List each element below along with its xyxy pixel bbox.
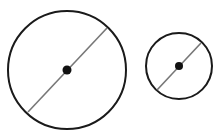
small-circle-group: [146, 33, 212, 99]
large-circle-center-dot: [63, 66, 72, 75]
large-circle-group: [8, 11, 126, 129]
small-circle-center-dot: [175, 62, 183, 70]
diagram-canvas: [0, 0, 219, 137]
